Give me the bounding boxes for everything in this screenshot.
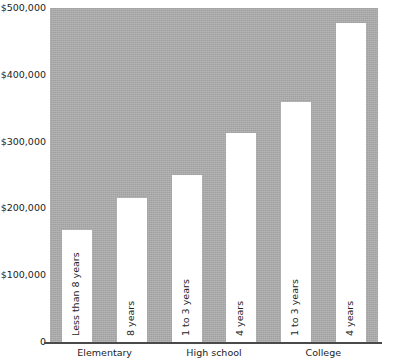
plot-area: Less than 8 years8 years1 to 3 years4 ye…: [50, 8, 378, 342]
x-axis-group-label: College: [306, 347, 341, 358]
y-axis-tick-label: $400,000: [0, 70, 46, 80]
bar-label: 8 years: [126, 301, 136, 336]
bar: Less than 8 years: [62, 230, 92, 342]
y-axis-tick-label: $100,000: [0, 270, 46, 280]
y-axis-tick-label: 0: [0, 337, 46, 347]
bar: 8 years: [117, 198, 147, 342]
bar: 1 to 3 years: [281, 102, 311, 342]
bar-label: 4 years: [345, 301, 355, 336]
bar-label: 1 to 3 years: [290, 279, 300, 336]
x-axis-group-label: Elementary: [77, 347, 132, 358]
bar: 4 years: [226, 133, 256, 342]
y-axis-tick-label: $300,000: [0, 137, 46, 147]
y-axis-tick-label: $500,000: [0, 3, 46, 13]
x-axis-group-label: High school: [186, 347, 241, 358]
bar-label: Less than 8 years: [71, 252, 81, 336]
y-axis-tick-label: $200,000: [0, 203, 46, 213]
bar: 4 years: [336, 23, 366, 342]
bar-chart: 0$100,000$200,000$300,000$400,000$500,00…: [0, 0, 393, 360]
bar: 1 to 3 years: [172, 175, 202, 342]
plot-texture-overlay: [50, 8, 378, 342]
bar-label: 1 to 3 years: [181, 279, 191, 336]
y-axis-tick-labels: 0$100,000$200,000$300,000$400,000$500,00…: [0, 0, 46, 360]
x-axis-line: [44, 342, 382, 344]
bar-label: 4 years: [235, 301, 245, 336]
